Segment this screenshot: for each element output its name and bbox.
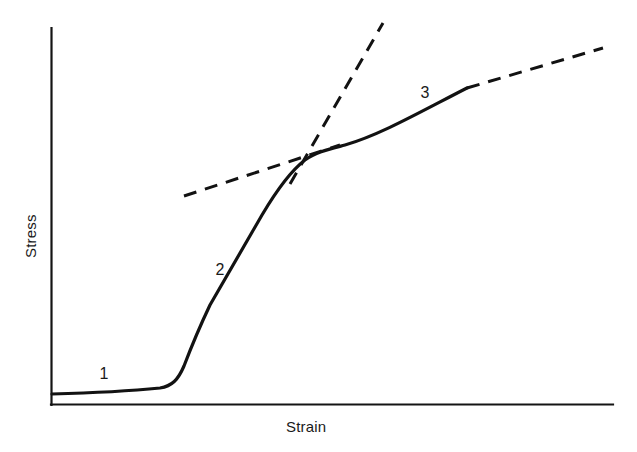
elastic-tangent-dashed [184,145,340,196]
x-axis-title: Strain [286,418,326,435]
y-axis-title: Stress [22,214,39,258]
region-label-2: 2 [216,261,225,278]
region-label-3: 3 [421,84,430,101]
post-yield-extrapolation-dashed [467,48,603,88]
linear-region-tangent-dashed [290,23,383,184]
region-label-1: 1 [100,365,109,382]
chart-canvas: 1 2 3 [0,0,637,452]
stress-strain-curve [52,88,467,394]
stress-strain-chart: 1 2 3 Stress Strain [0,0,637,452]
